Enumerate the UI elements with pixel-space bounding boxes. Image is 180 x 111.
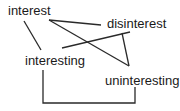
node-interest: interest <box>8 4 51 17</box>
node-interesting: interesting <box>25 54 85 67</box>
word-relation-diagram: interest disinterest interesting uninter… <box>0 0 180 111</box>
node-disinterest: disinterest <box>107 17 166 30</box>
edge-interesting-disinterest <box>62 32 130 48</box>
node-uninteresting: uninteresting <box>105 74 179 87</box>
edge-interest-interesting <box>24 21 41 50</box>
edge-disinterest-uninteresting <box>122 33 129 66</box>
